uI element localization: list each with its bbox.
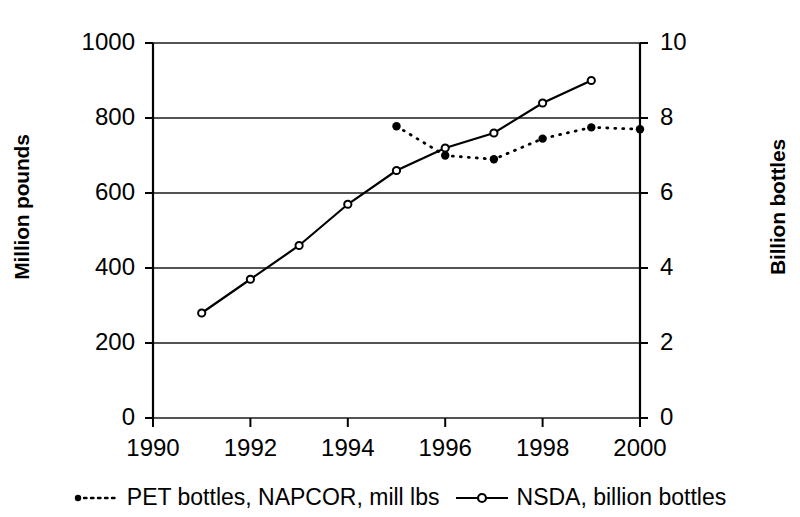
y-tick-label-left: 1000 xyxy=(25,30,135,54)
legend-label-nsda: NSDA, billion bottles xyxy=(517,486,727,509)
y-tick-label-left: 800 xyxy=(25,105,135,129)
y-axis-title-right: Billion bottles xyxy=(766,107,790,307)
y-tick-label-right: 2 xyxy=(660,330,740,354)
data-point xyxy=(538,134,546,142)
y-tick-label-right: 10 xyxy=(660,30,740,54)
data-point xyxy=(490,155,498,163)
y-tick-label-right: 6 xyxy=(660,180,740,204)
x-tick-label: 1998 xyxy=(493,436,593,460)
data-point xyxy=(587,123,595,131)
chart-legend: PET bottles, NAPCOR, mill lbs NSDA, bill… xyxy=(0,478,800,517)
legend-item-pet[interactable]: PET bottles, NAPCOR, mill lbs xyxy=(74,486,440,509)
y-tick-label-left: 600 xyxy=(25,180,135,204)
data-point xyxy=(198,309,205,316)
legend-dotted-line-dot-icon xyxy=(74,491,120,505)
x-tick-label: 1996 xyxy=(395,436,495,460)
x-tick-label: 1990 xyxy=(103,436,203,460)
y-tick-label-left: 200 xyxy=(25,330,135,354)
data-point xyxy=(490,129,497,136)
chart-container: Million pounds Billion bottles 020040060… xyxy=(0,0,800,517)
legend-item-nsda[interactable]: NSDA, billion bottles xyxy=(454,486,727,509)
data-point xyxy=(442,144,449,151)
x-tick-label: 1994 xyxy=(298,436,398,460)
y-tick-label-right: 4 xyxy=(660,255,740,279)
series-line-1 xyxy=(202,81,592,314)
data-point xyxy=(539,99,546,106)
y-tick-label-right: 8 xyxy=(660,105,740,129)
legend-label-pet: PET bottles, NAPCOR, mill lbs xyxy=(127,486,440,509)
data-point xyxy=(392,122,400,130)
data-point xyxy=(247,276,254,283)
x-tick-label: 2000 xyxy=(590,436,690,460)
y-tick-label-left: 400 xyxy=(25,255,135,279)
data-point xyxy=(344,201,351,208)
data-point xyxy=(588,77,595,84)
legend-solid-line-circle-icon xyxy=(454,491,510,505)
x-tick-label: 1992 xyxy=(200,436,300,460)
y-tick-label-right: 0 xyxy=(660,405,740,429)
y-tick-label-left: 0 xyxy=(25,405,135,429)
data-point xyxy=(393,167,400,174)
data-point xyxy=(636,125,644,133)
data-point xyxy=(296,242,303,249)
